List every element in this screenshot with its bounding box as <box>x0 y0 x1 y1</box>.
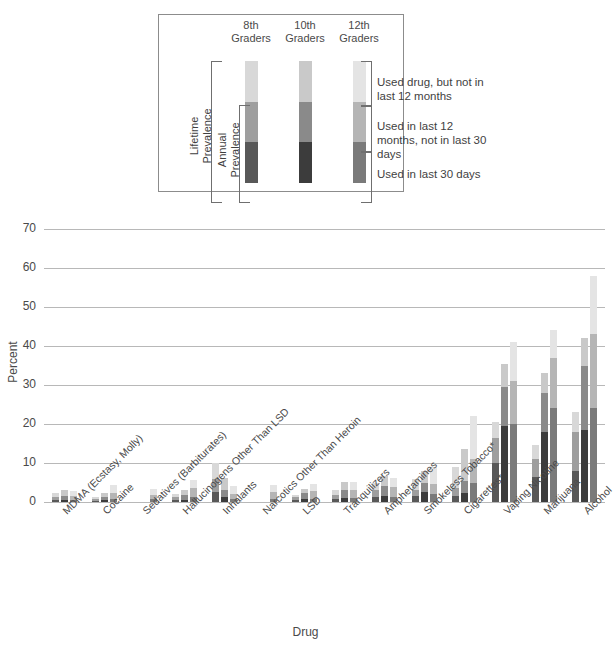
legend-header-10th: 10thGraders <box>277 19 333 45</box>
segment-lifetime-only <box>350 482 357 490</box>
stacked-bar <box>52 493 59 502</box>
stacked-bar <box>341 482 348 502</box>
stacked-bar <box>172 494 179 502</box>
segment-last-30-days <box>172 500 179 502</box>
segment-last-12-months <box>541 393 548 432</box>
x-axis-title: Drug <box>0 625 611 639</box>
y-tick-50: 50 <box>0 299 36 313</box>
segment-lifetime-only <box>532 445 539 459</box>
legend-label-annual-prevalence: AnnualPrevalence <box>216 104 242 196</box>
stacked-bar <box>590 276 597 502</box>
bar-group <box>572 209 597 502</box>
segment-lifetime-only <box>501 364 508 387</box>
segment-last-30-days <box>550 408 557 502</box>
segment-last-30-days <box>510 424 517 502</box>
bracket-right-annual <box>361 105 372 153</box>
segment-lifetime-only <box>590 276 597 335</box>
legend-sample-bar-10th <box>299 61 312 183</box>
segment-last-30-days <box>452 496 459 502</box>
stacked-bar <box>581 338 588 502</box>
stacked-bar <box>92 497 99 502</box>
y-tick-70: 70 <box>0 221 36 235</box>
y-tick-40: 40 <box>0 338 36 352</box>
segment-last-12-months <box>550 358 557 409</box>
segment-lifetime-only <box>390 478 397 487</box>
bar-group <box>372 209 397 502</box>
segment-lifetime-only <box>581 338 588 365</box>
segment-lifetime-only <box>510 342 517 381</box>
segment-last-30-days <box>92 501 99 502</box>
stacked-bar <box>550 330 557 502</box>
bracket-right-30day <box>361 151 372 203</box>
segment-last-12-months <box>510 381 517 424</box>
bar-group <box>132 209 157 502</box>
segment-last-30-days <box>372 497 379 502</box>
segment-last-30-days <box>212 492 219 502</box>
legend-text-30day: Used in last 30 days <box>377 167 497 181</box>
segment-last-12-months <box>581 366 588 430</box>
bar-group <box>252 209 277 502</box>
segment-lifetime-only <box>550 330 557 357</box>
segment-last-12-months <box>381 486 388 496</box>
bracket-right-lifetime-only <box>361 61 372 107</box>
y-tick-60: 60 <box>0 260 36 274</box>
legend-header-12th: 12thGraders <box>331 19 387 45</box>
segment-last-30-days <box>501 426 508 502</box>
bar-group <box>412 209 437 502</box>
legend-text-lifetime-only: Used drug, but not in last 12 months <box>377 75 497 103</box>
stacked-bar <box>510 342 517 502</box>
stacked-bar <box>292 495 299 502</box>
segment-lifetime-only <box>341 482 348 491</box>
y-tick-30: 30 <box>0 377 36 391</box>
bar-group <box>52 209 77 502</box>
segment-lifetime-only <box>541 373 548 393</box>
segment-lifetime-only <box>190 480 197 488</box>
segment-last-12-months <box>221 490 228 498</box>
segment-last-30-days <box>52 500 59 502</box>
segment-lifetime-only <box>310 484 317 491</box>
segment-last-30-days <box>412 496 419 502</box>
legend-header-8th: 8thGraders <box>223 19 279 45</box>
segment-last-30-days <box>292 500 299 502</box>
legend-text-annual: Used in last 12 months, not in last 30 d… <box>377 119 497 161</box>
segment-last-12-months <box>501 387 508 426</box>
segment-lifetime-only <box>572 412 579 432</box>
segment-last-30-days <box>590 408 597 502</box>
bar-group <box>492 209 517 502</box>
segment-last-12-months <box>572 432 579 471</box>
y-tick-20: 20 <box>0 416 36 430</box>
legend-label-lifetime-prevalence: LifetimePrevalence <box>188 88 214 184</box>
segment-lifetime-only <box>492 422 499 438</box>
segment-last-30-days <box>581 430 588 502</box>
stacked-bar <box>332 490 339 502</box>
segment-last-12-months <box>421 483 428 492</box>
chart-legend: 8thGraders 10thGraders 12thGraders Lifet… <box>158 14 404 192</box>
bar-group <box>332 209 357 502</box>
segment-last-12-months <box>590 334 597 408</box>
y-tick-0: 0 <box>0 494 36 508</box>
segment-last-30-days <box>332 499 339 502</box>
segment-last-12-months <box>341 490 348 498</box>
y-tick-10: 10 <box>0 455 36 469</box>
